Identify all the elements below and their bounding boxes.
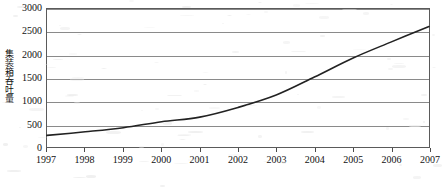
y-axis-tick-label: 2000 — [12, 50, 42, 60]
x-axis-tick-label: 2001 — [180, 154, 220, 166]
series-line-group — [47, 9, 429, 147]
y-axis-tick-label: 2500 — [12, 26, 42, 36]
scan-noise-speck — [7, 170, 21, 172]
scan-noise-speck — [432, 67, 436, 68]
x-axis-tick-label: 2007 — [410, 154, 442, 166]
x-axis-tick-mark — [123, 148, 124, 152]
x-axis-tick-label: 2004 — [295, 154, 335, 166]
scan-noise-speck — [413, 176, 421, 179]
y-axis-tick-label: 0 — [12, 143, 42, 153]
x-axis-tick-mark-group — [46, 148, 430, 153]
scan-noise-speck — [3, 143, 8, 146]
x-axis-tick-label: 1998 — [64, 154, 104, 166]
scan-noise-speck — [432, 34, 435, 36]
y-axis-tick-label: 500 — [12, 120, 42, 130]
series-line-container-throughput — [47, 26, 429, 135]
x-axis-tick-label: 2000 — [141, 154, 181, 166]
plot-area — [46, 8, 430, 148]
x-axis-tick-mark — [46, 148, 47, 152]
scan-noise-speck — [129, 0, 134, 2]
scan-noise-speck — [73, 177, 86, 178]
x-axis-tick-label: 1999 — [103, 154, 143, 166]
y-axis-tick-label: 1000 — [12, 96, 42, 106]
y-axis-tick-label: 3000 — [12, 3, 42, 13]
x-axis-tick-mark — [276, 148, 277, 152]
x-axis-tick-mark — [238, 148, 239, 152]
x-axis-tick-mark — [200, 148, 201, 152]
x-axis-tick-mark — [84, 148, 85, 152]
x-axis-tick-mark — [353, 148, 354, 152]
x-axis-tick-label: 1997 — [26, 154, 66, 166]
scan-noise-speck — [390, 4, 393, 5]
scan-noise-speck — [293, 4, 300, 7]
y-axis-tick-label: 1500 — [12, 73, 42, 83]
x-axis-tick-mark — [161, 148, 162, 152]
x-axis-tick-label: 2005 — [333, 154, 373, 166]
x-axis-tick-mark — [392, 148, 393, 152]
scan-noise-speck — [305, 3, 319, 4]
x-axis-tick-label: 2002 — [218, 154, 258, 166]
x-axis-tick-mark — [430, 148, 431, 152]
x-axis-tick-label: 2003 — [256, 154, 296, 166]
scan-noise-speck — [160, 185, 165, 187]
x-axis-tick-mark — [315, 148, 316, 152]
scan-noise-speck — [258, 2, 262, 3]
x-axis-tick-label-group: 1997199819992000200120022003200420052006… — [0, 154, 442, 170]
y-axis-tick-label-group: 300025002000150010005000 — [12, 0, 42, 160]
scan-noise-speck — [86, 175, 96, 178]
x-axis-tick-label: 2006 — [372, 154, 412, 166]
container-throughput-line-chart: 集装箱吞吐量 300025002000150010005000 19971998… — [0, 0, 442, 189]
